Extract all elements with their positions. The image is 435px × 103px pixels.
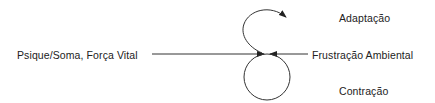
contraction-loop <box>244 54 290 100</box>
lower-outcome-label: Contração <box>339 85 388 97</box>
source-label: Psique/Soma, Força Vital <box>17 49 138 61</box>
opposing-label: Frustração Ambiental <box>312 49 413 61</box>
adaptation-loop-arrow <box>243 10 286 53</box>
upper-outcome-label: Adaptação <box>339 12 390 24</box>
